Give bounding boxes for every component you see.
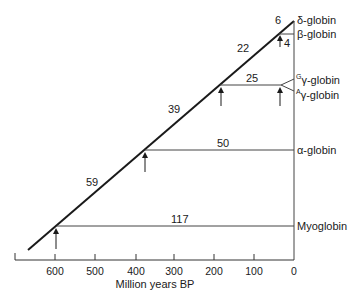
value-delta: 6 xyxy=(275,14,281,26)
value-myoglobin: 117 xyxy=(171,213,189,225)
value-gamma: 25 xyxy=(246,72,258,84)
label-alpha-globin: α-globin xyxy=(297,144,336,156)
label-myoglobin: Myoglobin xyxy=(297,220,347,232)
label-g-gamma-globin: Gγ-globin xyxy=(296,71,340,86)
trunk-line xyxy=(28,21,294,250)
value-trunk-mid: 39 xyxy=(168,103,180,115)
tick-200: 200 xyxy=(199,265,229,277)
tick-300: 300 xyxy=(159,265,189,277)
value-trunk-top: 22 xyxy=(237,42,249,54)
tick-0: 0 xyxy=(279,265,309,277)
value-beta: 4 xyxy=(284,37,290,49)
tick-600: 600 xyxy=(40,265,70,277)
label-delta-globin: δ-globin xyxy=(297,14,336,26)
label-beta-globin: β-globin xyxy=(297,28,336,40)
label-a-gamma-globin: Aγ-globin xyxy=(296,86,339,101)
tick-100: 100 xyxy=(239,265,269,277)
tick-400: 400 xyxy=(121,265,151,277)
value-trunk-low: 59 xyxy=(86,176,98,188)
x-axis-label: Million years BP xyxy=(5,278,305,290)
tick-500: 500 xyxy=(80,265,110,277)
value-alpha: 50 xyxy=(217,137,229,149)
